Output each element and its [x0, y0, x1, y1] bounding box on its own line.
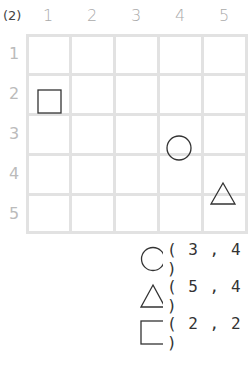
grid-line [26, 73, 248, 76]
triangle-icon [140, 283, 163, 309]
grid-line [26, 153, 248, 156]
row-header-4: 4 [6, 164, 22, 183]
column-header-3: 3 [114, 6, 158, 25]
legend-item-triangle: ( 5 , 4 ) [140, 283, 252, 309]
legend-item-circle: ( 3 , 4 ) [140, 246, 252, 272]
row-header-2: 2 [6, 84, 22, 103]
circle-icon [166, 135, 194, 163]
legend-coordinate: ( 2 , 2 ) [167, 314, 252, 352]
column-header-2: 2 [70, 6, 114, 25]
grid-line [113, 34, 116, 234]
grid-line [69, 34, 72, 234]
legend-coordinate: ( 5 , 4 ) [167, 277, 252, 315]
row-header-5: 5 [6, 204, 22, 223]
row-header-3: 3 [6, 124, 22, 143]
column-header-5: 5 [202, 6, 246, 25]
square-icon [140, 320, 163, 346]
grid-line [157, 34, 160, 234]
legend-coordinate: ( 3 , 4 ) [167, 240, 252, 278]
circle-icon [140, 246, 163, 272]
legend-item-square: ( 2 , 2 ) [140, 320, 252, 346]
grid-line [201, 34, 204, 234]
row-header-1: 1 [6, 44, 22, 63]
square-icon [37, 89, 63, 115]
triangle-icon [210, 181, 238, 207]
column-header-1: 1 [26, 6, 70, 25]
column-header-4: 4 [158, 6, 202, 25]
question-label: (2) [3, 8, 21, 23]
